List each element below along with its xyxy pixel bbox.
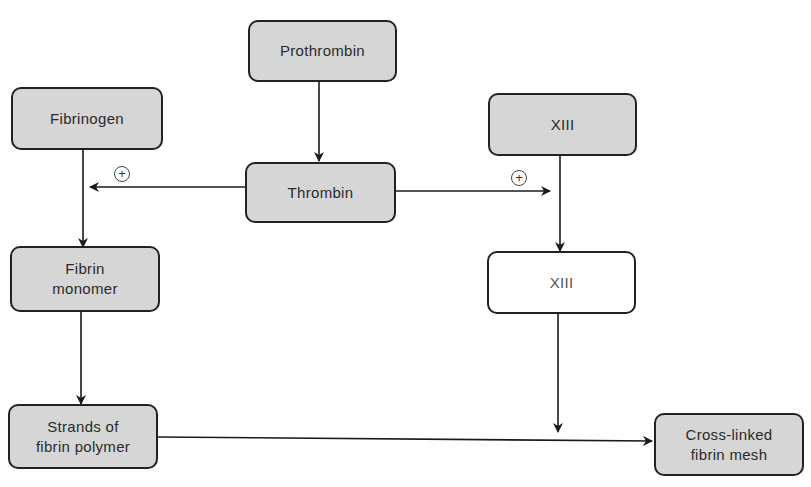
plus-sign-icon: + (114, 166, 130, 182)
node-fibrin-strands: Strands of fibrin polymer (8, 404, 158, 469)
node-xiii-activated: XIII (487, 251, 636, 314)
node-label: XIII (551, 115, 575, 135)
node-label: Fibrin monomer (52, 259, 117, 299)
node-label: Strands of fibrin polymer (36, 417, 130, 457)
node-fibrinogen: Fibrinogen (11, 87, 163, 150)
node-thrombin: Thrombin (245, 162, 396, 223)
plus-sign-icon: + (511, 170, 527, 186)
node-xiii: XIII (488, 93, 637, 156)
node-label: Cross-linked fibrin mesh (686, 425, 773, 465)
node-fibrin-monomer: Fibrin monomer (10, 246, 160, 312)
node-label: Thrombin (288, 183, 354, 203)
node-prothrombin: Prothrombin (248, 20, 397, 82)
node-label: Prothrombin (280, 41, 365, 61)
node-label: Fibrinogen (50, 109, 124, 129)
arrow-strands-mesh (158, 437, 652, 441)
node-label: XIII (550, 273, 574, 293)
node-crosslinked-mesh: Cross-linked fibrin mesh (654, 413, 804, 476)
